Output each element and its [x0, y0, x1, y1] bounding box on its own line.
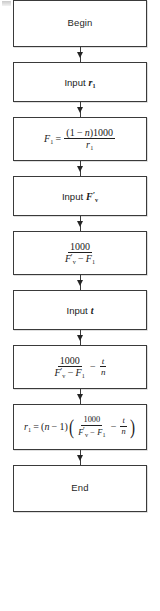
node-formula-compute-r1: r1 = (n−1) ( 1000 F′v−F1 − t n ) [24, 416, 136, 438]
factor-n: n [44, 422, 49, 432]
factor-minus: − [52, 422, 58, 432]
arrow-head [77, 455, 83, 461]
flowchart-node-compute-ratio: 1000 F′v−F1 [13, 231, 147, 275]
fraction-denominator: F′v−F1 [63, 253, 97, 264]
flowchart-node-input-fv-prime: InputF′v [13, 176, 147, 216]
formula-lhs-subscript: 1 [50, 138, 53, 145]
node-label-input-fv-prime: InputF′v [62, 191, 98, 202]
flowchart-node-begin: Begin [13, 0, 147, 47]
arrow-head [77, 394, 83, 400]
equals-sign: = [33, 422, 39, 432]
fraction: 1000 F′v−F1 [53, 356, 87, 379]
arrow-head [77, 280, 83, 286]
flowchart-node-input-r1: Inputr1 [13, 62, 147, 102]
node-formula-compute-f1: F1 = (1−n)1000 r1 [44, 128, 116, 151]
arrow-head [77, 107, 83, 113]
fraction-denominator: r1 [84, 139, 95, 150]
down-arrow-icon [73, 275, 87, 290]
fraction-denominator: F′v−F1 [53, 367, 87, 378]
fraction-denominator: n [120, 427, 128, 436]
node-label-input-t: Inputt [67, 305, 94, 316]
node-label-begin: Begin [67, 18, 92, 29]
fraction-numerator: t [120, 417, 126, 427]
input-variable: t [91, 305, 94, 316]
formula-lhs-subscript: 1 [28, 426, 31, 433]
down-arrow-icon [73, 161, 87, 176]
fraction: (1−n)1000 r1 [64, 128, 115, 151]
down-arrow-icon [73, 389, 87, 404]
node-label-input-r1: Inputr1 [64, 77, 95, 88]
fraction-numerator: 1000 [58, 356, 82, 368]
factor-one-close: 1) [59, 422, 67, 432]
arrow-head [77, 52, 83, 58]
down-arrow-icon [73, 216, 87, 231]
node-formula-ratio-minus-tn: 1000 F′v−F1 − t n [52, 356, 109, 379]
input-variable-subscript: 1 [92, 82, 95, 89]
input-keyword: Input [62, 191, 83, 202]
formula-lhs: F1 [44, 134, 53, 144]
flowchart-node-compute-ratio-minus-tn: 1000 F′v−F1 − t n [13, 345, 147, 389]
arrow-head [77, 335, 83, 341]
flowchart-node-input-t: Inputt [13, 290, 147, 330]
input-variable-subscript: v [95, 196, 98, 203]
fraction-denominator: n [99, 367, 108, 377]
flowchart-node-compute-f1: F1 = (1−n)1000 r1 [13, 117, 147, 161]
fraction-numerator: (1−n)1000 [64, 128, 115, 140]
down-arrow-icon [73, 450, 87, 465]
fraction-numerator: t [100, 357, 107, 368]
node-label-end: End [71, 483, 88, 494]
formula-lhs: r1 [24, 422, 31, 432]
node-formula-compute-ratio: 1000 F′v−F1 [62, 242, 98, 265]
fraction-denominator: F′v−F1 [76, 426, 107, 437]
fraction: 1000 F′v−F1 [76, 416, 107, 438]
flowchart-node-end: End [13, 465, 147, 512]
arrow-head [77, 221, 83, 227]
fraction-numerator: 1000 [68, 242, 92, 254]
fraction-tn: t n [120, 417, 128, 437]
flowchart-node-compute-r1: r1 = (n−1) ( 1000 F′v−F1 − t n ) [13, 404, 147, 450]
flowchart-diagram: Begin Inputr1 F1 = (1−n)1000 r1 InputF′v [0, 0, 160, 611]
input-variable: r1 [89, 77, 96, 88]
equals-sign: = [56, 134, 62, 144]
fraction: 1000 F′v−F1 [63, 242, 97, 265]
arrow-head [77, 166, 83, 172]
down-arrow-icon [73, 47, 87, 62]
input-keyword: Input [67, 305, 88, 316]
down-arrow-icon [73, 102, 87, 117]
fraction-numerator: 1000 [81, 416, 102, 426]
input-keyword: Input [64, 77, 85, 88]
input-variable: F′v [86, 191, 98, 202]
minus-operator: − [90, 362, 96, 372]
down-arrow-icon [73, 330, 87, 345]
minus-operator: − [111, 422, 117, 432]
scan-artifact-mark [2, 1, 11, 6]
fraction-tn: t n [99, 357, 108, 378]
